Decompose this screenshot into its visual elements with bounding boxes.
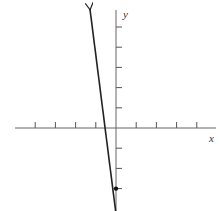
x-axis-label: x (208, 132, 214, 144)
line-series (90, 9, 118, 211)
y-ticks (116, 27, 122, 189)
axes: x y (15, 8, 216, 211)
plot-area (90, 9, 118, 211)
coordinate-plane: x y (0, 0, 220, 211)
y-axis-label: y (122, 8, 128, 20)
y-intercept-point (114, 186, 118, 190)
